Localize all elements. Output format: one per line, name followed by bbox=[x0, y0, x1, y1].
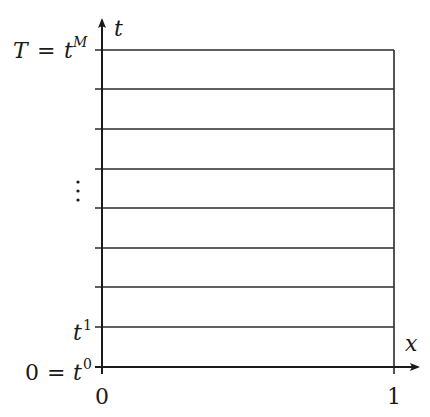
svg-text:1: 1 bbox=[83, 317, 92, 333]
label-t1: t 1 bbox=[73, 317, 92, 345]
svg-text:t: t bbox=[73, 320, 82, 345]
svg-text:t: t bbox=[73, 360, 82, 385]
label-0-equals-t0: 0 = t 0 bbox=[25, 356, 92, 385]
grid-lines bbox=[95, 50, 394, 327]
svg-text:0: 0 bbox=[25, 360, 39, 385]
svg-text:t: t bbox=[64, 38, 73, 63]
t-axis-label: t bbox=[114, 16, 123, 41]
label-T-equals-tM: T = t M bbox=[13, 34, 88, 63]
svg-text:=: = bbox=[47, 360, 65, 385]
svg-text:=: = bbox=[37, 38, 55, 63]
vertical-ellipsis bbox=[76, 180, 79, 201]
svg-text:T: T bbox=[13, 38, 30, 63]
svg-text:0: 0 bbox=[83, 356, 92, 372]
x-tick-0: 0 bbox=[95, 384, 109, 409]
svg-text:M: M bbox=[72, 34, 88, 50]
x-tick-1: 1 bbox=[387, 384, 401, 409]
time-grid-diagram: t x 0 1 T = t M t 1 0 = t 0 bbox=[0, 0, 430, 417]
x-axis-label: x bbox=[405, 331, 418, 356]
